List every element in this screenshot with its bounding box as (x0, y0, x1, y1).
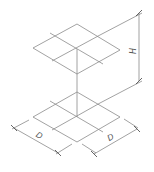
depth-right-label: D (106, 132, 116, 143)
depth-left-label: D (34, 130, 44, 141)
height-extension-bottom (100, 81, 142, 103)
depth-right-extension-a (82, 144, 96, 153)
depth-dimension-left: D (11, 120, 72, 156)
depth-left-extension-a (12, 120, 29, 129)
height-dimension: H (100, 10, 142, 103)
depth-left-extension-b (56, 144, 72, 154)
depth-left-dimension-line (14, 128, 58, 153)
depth-right-extension-b (124, 119, 138, 128)
depth-right-tick-b (134, 126, 140, 132)
height-label: H (129, 48, 138, 54)
depth-left-tick-b (55, 150, 61, 156)
upper-panel-divider-b (52, 35, 100, 61)
isometric-drawing: H D D (0, 0, 154, 172)
depth-left-tick-a (11, 125, 17, 131)
depth-right-dimension-line (94, 129, 137, 154)
height-extension-top (100, 13, 142, 35)
